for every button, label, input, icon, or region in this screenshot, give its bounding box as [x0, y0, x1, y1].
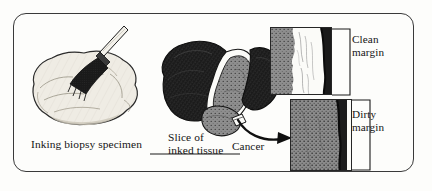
dirty-margin-panel	[290, 99, 352, 171]
inking-biopsy-scene	[24, 22, 148, 138]
clean-margin-panel	[270, 27, 332, 95]
label-cancer: Cancer	[232, 140, 264, 153]
label-dirty-margin: Dirty margin	[352, 108, 384, 133]
illustration-figure: Inking biopsy specimen Slice of inked ti…	[0, 0, 432, 191]
label-inking-biopsy-specimen: Inking biopsy specimen	[31, 138, 142, 151]
label-slice-of-inked-tissue: Slice of inked tissue	[168, 131, 223, 157]
label-clean-margin: Clean margin	[352, 33, 384, 58]
